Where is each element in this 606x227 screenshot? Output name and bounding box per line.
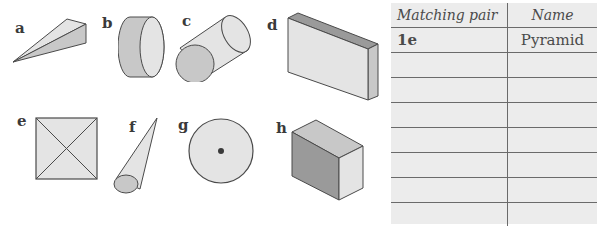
- cylinder-shape-icon: [172, 12, 257, 82]
- header-name: Name: [508, 3, 598, 28]
- table-row: 1e Pyramid: [391, 28, 597, 53]
- shape-label-e: e: [17, 114, 27, 129]
- cell-matching-pair[interactable]: [391, 178, 508, 203]
- table-row: [391, 53, 597, 78]
- cylinder-disc-shape-icon: [118, 14, 168, 80]
- table-row: [391, 178, 597, 203]
- cube-shape-icon: [290, 118, 366, 204]
- wedge-shape-icon: [10, 15, 90, 65]
- cone-shape-icon: [112, 115, 162, 195]
- cell-name[interactable]: [508, 103, 598, 128]
- cell-matching-pair[interactable]: [391, 128, 508, 153]
- shape-label-d: d: [267, 18, 278, 33]
- table-row: [391, 103, 597, 128]
- pyramid-top-view-shape-icon: [35, 117, 99, 181]
- table-row: [391, 153, 597, 178]
- cell-name[interactable]: [508, 128, 598, 153]
- cell-name: Pyramid: [508, 28, 598, 53]
- cell-name[interactable]: [508, 53, 598, 78]
- shape-label-h: h: [276, 121, 287, 136]
- shape-label-b: b: [102, 16, 113, 31]
- cell-name[interactable]: [508, 78, 598, 103]
- cell-matching-pair[interactable]: [391, 53, 508, 78]
- matching-table: Matching pair Name 1e Pyramid: [391, 3, 597, 224]
- cell-name[interactable]: [508, 203, 598, 227]
- table-row: [391, 203, 597, 227]
- cell-name[interactable]: [508, 178, 598, 203]
- cell-name[interactable]: [508, 153, 598, 178]
- header-matching-pair: Matching pair: [391, 3, 508, 28]
- cell-matching-pair[interactable]: [391, 78, 508, 103]
- circle-top-view-shape-icon: [187, 118, 257, 186]
- cell-matching-pair: 1e: [391, 28, 508, 53]
- cuboid-shape-icon: [284, 12, 380, 102]
- cell-matching-pair[interactable]: [391, 203, 508, 227]
- table-row: [391, 128, 597, 153]
- table-row: [391, 78, 597, 103]
- cell-matching-pair[interactable]: [391, 103, 508, 128]
- cell-matching-pair[interactable]: [391, 153, 508, 178]
